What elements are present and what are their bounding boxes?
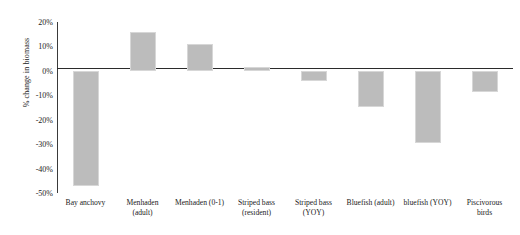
y-tick-label: -30% [36,140,53,149]
x-category-label: Piscivorous birds [452,198,517,218]
x-axis-category-labels: Bay anchovyMenhaden (adult)Menhaden (0-1… [57,198,513,234]
y-tick-label: 10% [38,42,53,51]
bar [187,44,213,71]
bar-chart: % change in biomass 20%10%0%-10%-20%-30%… [0,0,520,235]
y-tick-label: 0% [42,66,53,75]
x-category-label: Striped bass (resident) [224,198,289,218]
y-tick-label: -50% [36,189,53,198]
bar [244,67,270,71]
y-tick-label: 20% [38,18,53,27]
y-tick-label: -10% [36,91,53,100]
y-tick-label: -40% [36,164,53,173]
bar [415,71,441,143]
bar [472,71,498,92]
bar-series [57,22,513,193]
x-category-label: Menhaden (adult) [110,198,175,218]
bar [301,71,327,81]
x-category-label: Striped bass (YOY) [281,198,346,218]
plot-area: 20%10%0%-10%-20%-30%-40%-50% [57,22,513,193]
bar [73,71,99,186]
y-tick-label: -20% [36,115,53,124]
x-category-label: Menhaden (0-1) [167,198,232,208]
x-category-label: Bay anchovy [53,198,118,208]
y-axis-title: % change in biomass [22,8,31,138]
bar [130,32,156,71]
bar [358,71,384,108]
x-category-label: Bluefish (adult) [338,198,403,208]
x-category-label: bluefish (YOY) [395,198,460,208]
